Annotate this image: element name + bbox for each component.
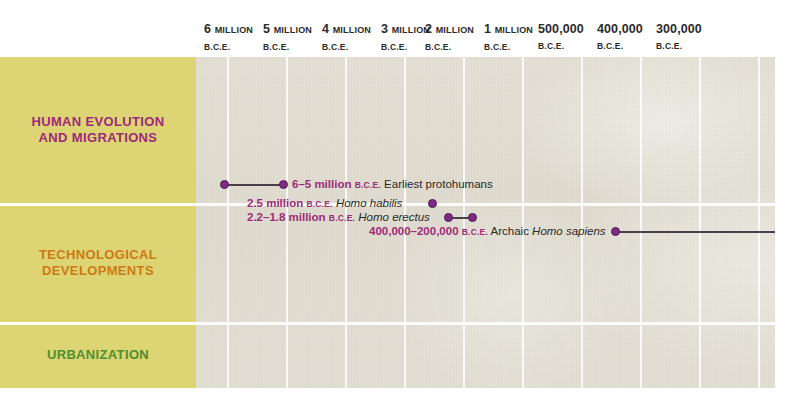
- gridline-vertical: [699, 57, 701, 388]
- axis-tick-unit: MILLION: [333, 25, 371, 35]
- category-band-urbanization[interactable]: URBANIZATION: [0, 322, 196, 388]
- event-dot-start[interactable]: [611, 227, 620, 236]
- event-date: 400,000–200,000: [369, 225, 459, 237]
- axis-tick-4-million: 4 MILLION B.C.E.: [322, 22, 371, 52]
- axis-tick-era: B.C.E.: [425, 42, 474, 52]
- axis-tick-unit: MILLION: [274, 25, 312, 35]
- gridline-vertical: [227, 57, 229, 388]
- event-era: B.C.E.: [355, 180, 381, 190]
- gridline-vertical: [758, 57, 760, 388]
- event-description: Earliest protohumans: [384, 178, 493, 190]
- axis-tick-era: B.C.E.: [484, 42, 533, 52]
- event-date: 2.5 million: [247, 197, 303, 209]
- event-span-line: [615, 231, 788, 233]
- event-description: Homo habilis: [336, 197, 402, 209]
- axis-tick-400000: 400,000 B.C.E.: [597, 22, 643, 51]
- axis-tick-era: B.C.E.: [263, 42, 312, 52]
- axis-tick-era: B.C.E.: [538, 41, 584, 51]
- axis-tick-value: 400,000: [597, 22, 643, 36]
- event-label-earliest-protohumans: 6–5 million B.C.E. Earliest protohumans: [292, 176, 493, 193]
- axis-tick-500000: 500,000 B.C.E.: [538, 22, 584, 51]
- category-label-line1: TECHNOLOGICAL: [39, 247, 157, 262]
- event-era: B.C.E.: [306, 199, 332, 209]
- axis-tick-value: 3 MILLION: [381, 22, 430, 37]
- axis-tick-era: B.C.E.: [322, 42, 371, 52]
- event-span-line: [224, 184, 283, 186]
- event-dot-point[interactable]: [428, 199, 437, 208]
- category-label-line1: URBANIZATION: [47, 347, 149, 362]
- axis-tick-era: B.C.E.: [656, 41, 702, 51]
- event-date: 2.2–1.8 million: [247, 211, 326, 223]
- axis-tick-5-million: 5 MILLION B.C.E.: [263, 22, 312, 52]
- bottom-page-margin: [0, 388, 788, 402]
- axis-tick-unit: MILLION: [436, 25, 474, 35]
- axis-tick-3-million: 3 MILLION B.C.E.: [381, 22, 430, 52]
- axis-tick-value: 500,000: [538, 22, 584, 36]
- category-label-human-evolution: HUMAN EVOLUTION AND MIGRATIONS: [31, 114, 164, 146]
- event-dot-end[interactable]: [279, 180, 288, 189]
- event-dot-end[interactable]: [468, 213, 477, 222]
- axis-tick-value: 4 MILLION: [322, 22, 371, 37]
- event-dot-start[interactable]: [220, 180, 229, 189]
- event-description-prefix: Archaic: [491, 225, 533, 237]
- axis-tick-unit: MILLION: [215, 25, 253, 35]
- axis-tick-era: B.C.E.: [597, 41, 643, 51]
- axis-tick-value: 1 MILLION: [484, 22, 533, 37]
- event-label-archaic-homo-sapiens: 400,000–200,000 B.C.E. Archaic Homo sapi…: [369, 223, 606, 240]
- axis-tick-2-million: 2 MILLION B.C.E.: [425, 22, 474, 52]
- axis-tick-300000: 300,000 B.C.E.: [656, 22, 702, 51]
- event-era: B.C.E.: [462, 227, 488, 237]
- timeline-axis-header: 6 MILLION B.C.E. 5 MILLION B.C.E. 4 MILL…: [0, 0, 788, 57]
- axis-tick-value: 6 MILLION: [204, 22, 253, 37]
- gridline-vertical: [640, 57, 642, 388]
- event-description: Homo sapiens: [532, 225, 606, 237]
- axis-tick-1-million: 1 MILLION B.C.E.: [484, 22, 533, 52]
- event-era: B.C.E.: [329, 213, 355, 223]
- category-label-technological-developments: TECHNOLOGICAL DEVELOPMENTS: [39, 247, 157, 279]
- timeline-infographic: 6 MILLION B.C.E. 5 MILLION B.C.E. 4 MILL…: [0, 0, 788, 402]
- axis-tick-value: 300,000: [656, 22, 702, 36]
- event-dot-start[interactable]: [444, 213, 453, 222]
- category-band-human-evolution[interactable]: HUMAN EVOLUTION AND MIGRATIONS: [0, 57, 196, 203]
- right-page-margin: [775, 0, 788, 402]
- category-band-technological-developments[interactable]: TECHNOLOGICAL DEVELOPMENTS: [0, 203, 196, 322]
- category-label-line2: DEVELOPMENTS: [42, 263, 154, 278]
- event-description: Homo erectus: [358, 211, 430, 223]
- axis-tick-era: B.C.E.: [204, 42, 253, 52]
- axis-tick-value: 5 MILLION: [263, 22, 312, 37]
- axis-tick-6-million: 6 MILLION B.C.E.: [204, 22, 253, 52]
- category-sidebar: HUMAN EVOLUTION AND MIGRATIONS TECHNOLOG…: [0, 57, 196, 388]
- category-label-line1: HUMAN EVOLUTION: [31, 114, 164, 129]
- category-label-urbanization: URBANIZATION: [47, 347, 149, 363]
- category-label-line2: AND MIGRATIONS: [39, 130, 158, 145]
- axis-tick-unit: MILLION: [495, 25, 533, 35]
- axis-tick-value: 2 MILLION: [425, 22, 474, 37]
- axis-tick-era: B.C.E.: [381, 42, 430, 52]
- event-date: 6–5 million: [292, 178, 351, 190]
